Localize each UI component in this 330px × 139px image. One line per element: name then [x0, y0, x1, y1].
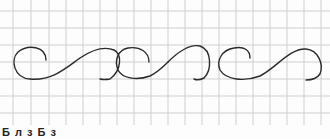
figure-caption: Б л з Б з: [2, 126, 57, 138]
grid-lines: [0, 0, 330, 139]
grid-paper: Б л з Б з: [0, 0, 330, 139]
